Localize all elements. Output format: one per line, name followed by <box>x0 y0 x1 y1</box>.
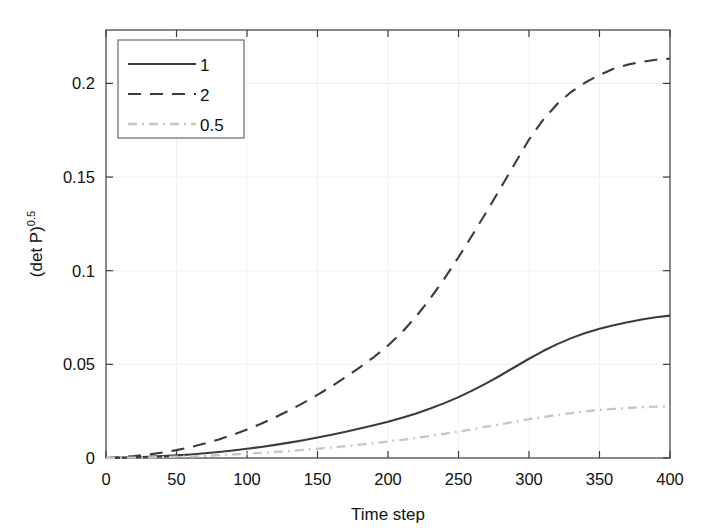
x-tick-label: 100 <box>233 470 261 488</box>
legend-label-2: 2 <box>200 86 209 105</box>
chart-figure: 050100150200250300350400 00.050.10.150.2… <box>0 0 703 531</box>
chart-legend[interactable]: 120.5 <box>118 40 244 138</box>
legend-label-0.5: 0.5 <box>200 116 224 135</box>
y-axis-label-base: (det P) <box>27 226 46 277</box>
x-tick-label: 200 <box>374 470 402 488</box>
y-tick-label: 0 <box>86 449 95 467</box>
y-tick-label: 0.15 <box>63 168 95 186</box>
x-tick-label: 250 <box>445 470 473 488</box>
x-tick-label: 400 <box>656 470 684 488</box>
y-tick-label: 0.05 <box>63 355 95 373</box>
x-tick-label: 50 <box>167 470 185 488</box>
legend-label-1: 1 <box>200 56 209 75</box>
x-tick-label: 300 <box>515 470 543 488</box>
x-axis-label: Time step <box>351 505 425 524</box>
x-tick-label: 150 <box>304 470 332 488</box>
x-tick-label: 350 <box>586 470 614 488</box>
line-chart: 050100150200250300350400 00.050.10.150.2… <box>0 0 703 531</box>
y-tick-label: 0.2 <box>72 74 95 92</box>
y-tick-label: 0.1 <box>72 262 95 280</box>
y-axis-label-exponent: 0.5 <box>25 211 37 226</box>
x-tick-label: 0 <box>101 470 110 488</box>
